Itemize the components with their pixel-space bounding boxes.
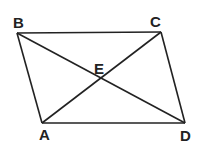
label-b: B bbox=[13, 14, 24, 31]
segment-cd bbox=[161, 32, 185, 123]
segment-ab bbox=[17, 33, 42, 123]
segment-bc bbox=[17, 32, 161, 33]
figure-canvas: B C E A D bbox=[0, 0, 209, 151]
label-c: C bbox=[150, 13, 161, 30]
label-a: A bbox=[39, 126, 50, 143]
label-e: E bbox=[94, 60, 104, 77]
diagonal-bd bbox=[17, 33, 185, 123]
label-d: D bbox=[180, 127, 191, 144]
geometry-figure: B C E A D bbox=[0, 0, 209, 151]
